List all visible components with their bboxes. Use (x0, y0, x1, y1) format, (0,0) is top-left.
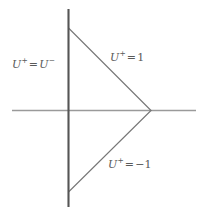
label-left-superscript-1: + (21, 56, 27, 65)
label-lower-state: U+=−1 (108, 157, 152, 170)
riemann-fan-diagram: U+=U− U+=1 U+=−1 (0, 0, 208, 215)
label-upper-value: 1 (137, 51, 144, 64)
label-lower-value: −1 (135, 158, 152, 171)
label-left-symbol-2: U (39, 58, 48, 71)
label-lower-operator: = (124, 158, 135, 171)
label-left-superscript-2: − (49, 56, 55, 65)
label-lower-superscript: + (117, 156, 123, 165)
label-interface-condition: U+=U− (12, 57, 55, 70)
label-upper-state: U+=1 (110, 50, 144, 63)
lower-ray (69, 111, 152, 193)
diagram-canvas (0, 0, 208, 215)
label-upper-superscript: + (119, 49, 125, 58)
label-upper-operator: = (126, 51, 137, 64)
upper-ray (69, 28, 152, 111)
label-left-operator: = (28, 58, 39, 71)
